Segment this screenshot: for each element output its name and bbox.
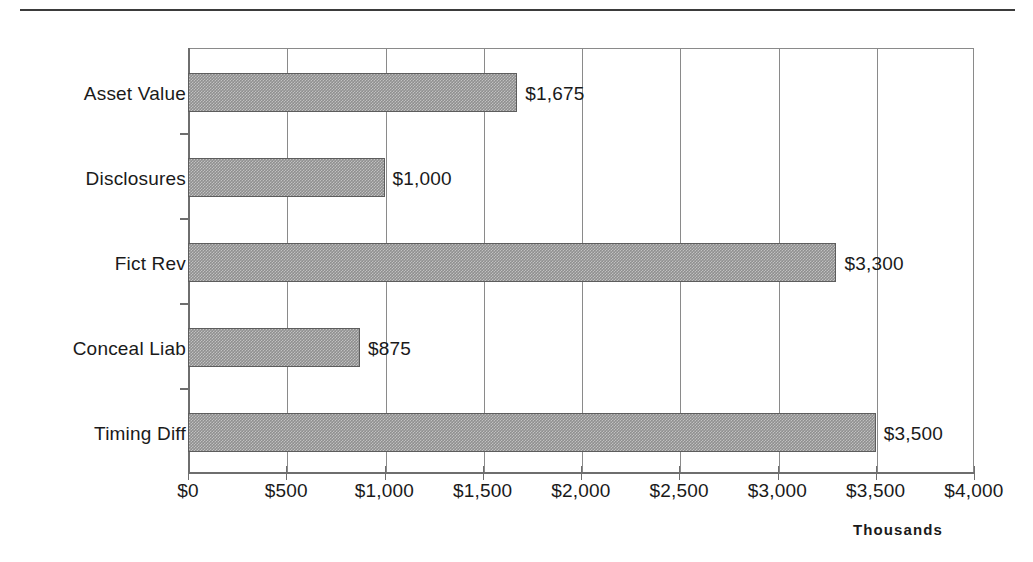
bar-data-label: $1,675 xyxy=(525,84,584,103)
category-axis-label: Timing Diff xyxy=(94,424,186,443)
category-axis-label: Conceal Liab xyxy=(73,339,186,358)
value-axis-tick-label: $4,000 xyxy=(914,481,1033,500)
category-axis-tick xyxy=(180,218,189,220)
value-axis-tick xyxy=(385,466,386,480)
category-axis-label: Fict Rev xyxy=(115,254,186,273)
category-axis-label: Asset Value xyxy=(84,84,186,103)
value-axis-tick xyxy=(286,466,287,480)
category-axis-tick xyxy=(180,303,189,305)
value-axis-tick xyxy=(876,466,877,480)
value-axis-tick xyxy=(483,466,484,480)
value-axis-tick xyxy=(778,466,779,480)
value-axis-tick xyxy=(679,466,680,480)
bar xyxy=(188,243,836,282)
bar-data-label: $875 xyxy=(368,339,411,358)
horizontal-bar-chart: Asset ValueDisclosuresFict RevConceal Li… xyxy=(0,0,1033,562)
value-axis-tick xyxy=(974,466,975,480)
category-axis-label: Disclosures xyxy=(86,169,186,188)
bar xyxy=(188,73,517,112)
category-axis-tick xyxy=(180,133,189,135)
category-axis-tick xyxy=(180,388,189,390)
value-axis-tick xyxy=(581,466,582,480)
axis-unit-label: Thousands xyxy=(838,521,958,538)
bar-data-label: $3,300 xyxy=(844,254,903,273)
bar xyxy=(188,328,360,367)
bar-data-label: $3,500 xyxy=(884,424,943,443)
bar xyxy=(188,413,876,452)
bar xyxy=(188,158,385,197)
bar-data-label: $1,000 xyxy=(393,169,452,188)
value-axis-tick xyxy=(188,466,189,480)
